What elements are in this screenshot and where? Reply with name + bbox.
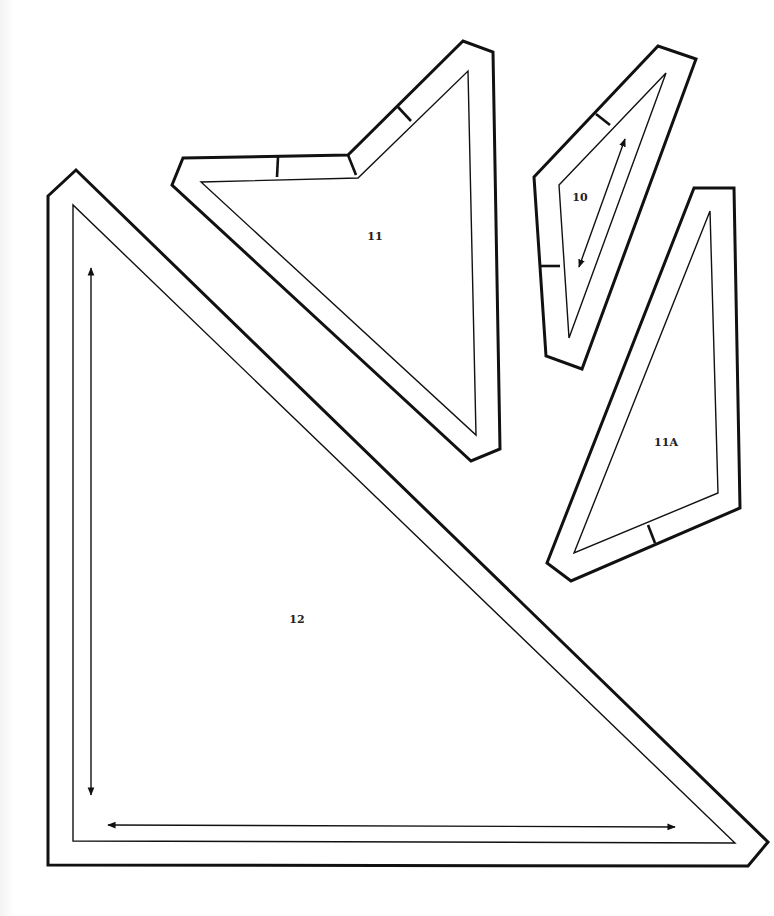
- piece-label: 11A: [654, 436, 678, 449]
- grainline-arrow-icon: [108, 825, 675, 827]
- piece-label: 11: [367, 230, 382, 243]
- notch-mark: [277, 157, 278, 177]
- seam-line: [73, 205, 735, 843]
- pattern-piece-11: 11: [172, 41, 500, 461]
- notch-mark: [398, 107, 411, 121]
- cutting-line: [172, 41, 500, 461]
- notch-mark: [596, 114, 610, 125]
- piece-label: 10: [572, 191, 588, 204]
- seam-line: [201, 71, 476, 435]
- seam-line: [574, 211, 718, 553]
- pattern-piece-11A: 11A: [547, 188, 740, 581]
- pattern-pieces: 12111011A: [48, 41, 768, 866]
- notch-mark: [648, 525, 655, 543]
- pattern-piece-10: 10: [534, 46, 696, 369]
- piece-label: 12: [289, 613, 304, 626]
- notch-mark: [348, 155, 356, 175]
- cutting-line: [534, 46, 696, 369]
- pattern-sheet: 12111011A: [0, 0, 774, 916]
